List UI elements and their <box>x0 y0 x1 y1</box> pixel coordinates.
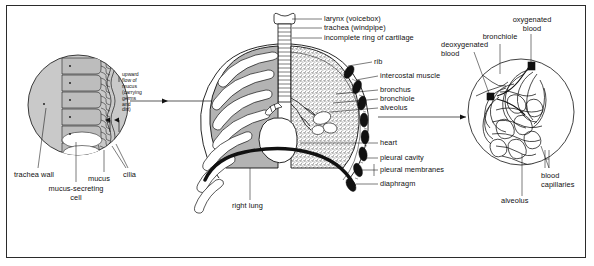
label-cilia: cilia <box>123 171 136 180</box>
figure-border <box>6 5 586 258</box>
label-trachea: trachea (windpipe) <box>324 24 386 33</box>
label-trachea-wall: trachea wall <box>14 171 54 180</box>
label-heart: heart <box>380 139 397 148</box>
label-deoxygenated-blood: deoxygenated blood <box>441 41 488 58</box>
respiratory-system-figure: upward flow of mucus (carrying germs and… <box>0 0 594 266</box>
label-cartilage-ring: incomplete ring of cartilage <box>324 34 414 43</box>
label-pleural-cavity: pleural cavity <box>380 154 424 163</box>
label-pleural-membranes: pleural membranes <box>380 166 444 175</box>
label-rib: rib <box>374 58 382 67</box>
label-alveolus-inset: alveolus <box>501 197 529 206</box>
label-mucus-secreting-cell: mucus-secreting cell <box>38 185 114 202</box>
label-right-lung: right lung <box>232 202 263 211</box>
label-mucus: mucus <box>88 175 110 184</box>
label-blood-capillaries: blood capillaries <box>541 172 574 189</box>
label-intercostal-muscle: intercostal muscle <box>380 72 440 81</box>
label-diaphragm: diaphragm <box>380 180 415 189</box>
mucus-flow-note: upward flow of mucus (carrying germs and… <box>122 72 148 113</box>
label-alveolus: alveolus <box>380 104 408 113</box>
label-oxygenated-blood: oxygenated blood <box>508 16 556 33</box>
